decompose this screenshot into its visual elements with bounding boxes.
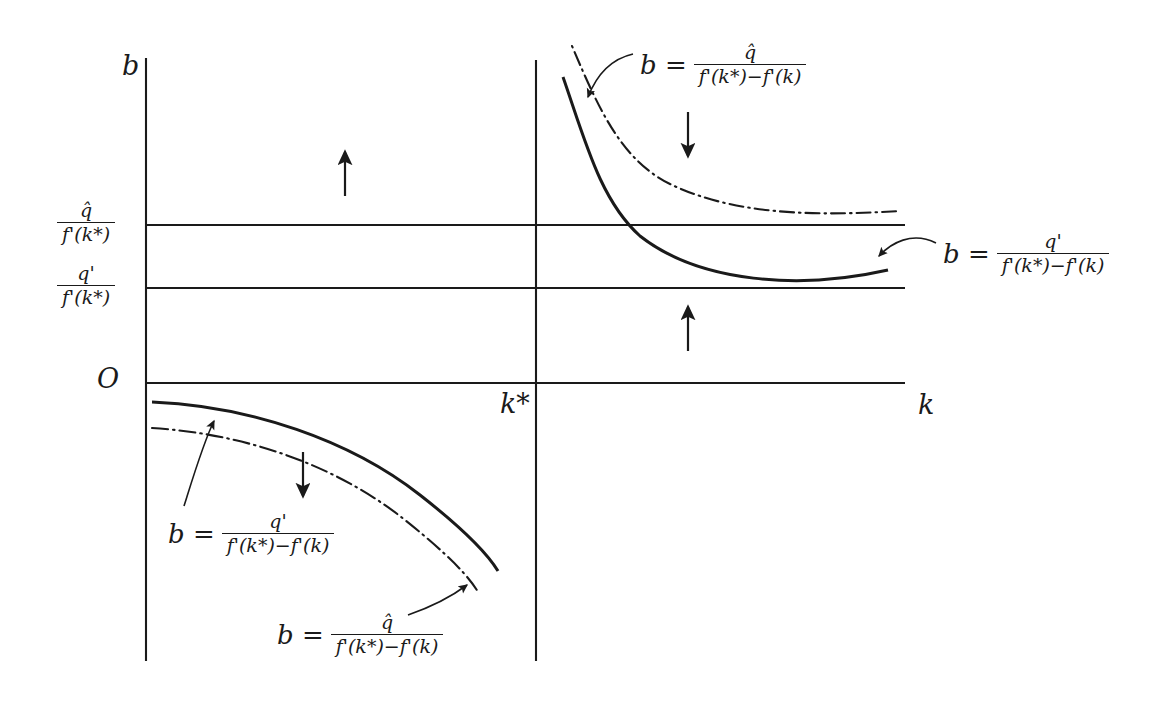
curve-label-bottom-left-fraction: q' f'(k*)−f'(k): [222, 511, 335, 557]
curve-label-bottom-left-numerator: q': [222, 511, 335, 534]
curve-label-bottom-center-fraction: q̂ f'(k*)−f'(k): [331, 612, 444, 658]
curve-label-bottom-left-denominator: f'(k*)−f'(k): [222, 534, 335, 556]
origin-label: O: [97, 363, 119, 394]
q-prime-level-numerator: q': [57, 263, 115, 286]
phase-diagram-figure: b k O k* q̂ f'(k*) q' f'(k*) b = q̂ f'(k…: [0, 0, 1164, 701]
pointer-bottom-left-arrow: [184, 421, 214, 506]
q-hat-level-denominator: f'(k*): [57, 223, 115, 245]
kstar-label-text: k*: [500, 388, 530, 419]
curve-label-right-numerator: q': [997, 231, 1110, 254]
kstar-label: k*: [500, 388, 530, 419]
curve-label-top-right-numerator: q̂: [694, 42, 807, 65]
curve-label-top-right: b = q̂ f'(k*)−f'(k): [640, 42, 806, 88]
curve-label-top-right-lead: b =: [640, 50, 687, 80]
q-prime-level-label: q' f'(k*): [57, 263, 115, 309]
curve-label-right-lead: b =: [943, 239, 990, 269]
q-prime-level-fraction: q' f'(k*): [57, 263, 115, 309]
curve-label-bottom-left-lead: b =: [168, 519, 215, 549]
curve-label-right-fraction: q' f'(k*)−f'(k): [997, 231, 1110, 277]
pointer-right-arrow: [879, 238, 936, 256]
curve-label-right: b = q' f'(k*)−f'(k): [943, 231, 1109, 277]
curve-label-bottom-center: b = q̂ f'(k*)−f'(k): [277, 612, 443, 658]
q-hat-level-fraction: q̂ f'(k*): [57, 200, 115, 246]
curve-label-right-denominator: f'(k*)−f'(k): [997, 254, 1110, 276]
k-axis-label: k: [918, 389, 934, 420]
curve-label-bottom-center-denominator: f'(k*)−f'(k): [331, 635, 444, 657]
q-hat-level-label: q̂ f'(k*): [57, 200, 115, 246]
q-hat-level-numerator: q̂: [57, 200, 115, 223]
b-axis-label: b: [122, 50, 139, 81]
upper-right-solid-curve: [563, 77, 888, 281]
curve-label-bottom-left: b = q' f'(k*)−f'(k): [168, 511, 334, 557]
curve-label-bottom-center-numerator: q̂: [331, 612, 444, 635]
pointer-top-right-arrow: [588, 54, 633, 97]
q-prime-level-denominator: f'(k*): [57, 286, 115, 308]
curve-label-bottom-center-lead: b =: [277, 620, 324, 650]
curve-label-top-right-denominator: f'(k*)−f'(k): [694, 65, 807, 87]
diagram-canvas: [0, 0, 1164, 701]
curve-label-top-right-fraction: q̂ f'(k*)−f'(k): [694, 42, 807, 88]
pointer-bottom-center-arrow: [408, 585, 467, 615]
